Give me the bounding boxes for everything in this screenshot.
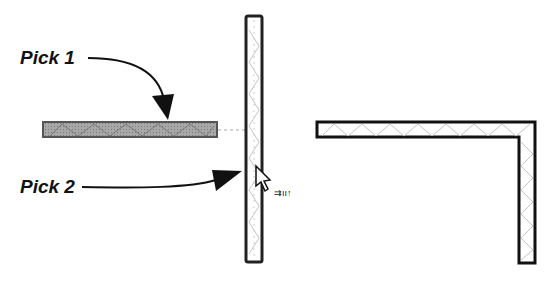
pick2-label: Pick 2 — [20, 176, 75, 198]
pick1-arrow — [88, 58, 174, 120]
pick1-label: Pick 1 — [20, 47, 75, 69]
trim-icon: ⇉ıı↑ — [274, 188, 292, 198]
pick2-arrow — [82, 170, 242, 191]
left-wall-selected[interactable] — [43, 122, 217, 137]
trim-extend-diagram: ⇉ıı↑ Pick 1 Pick 2 — [0, 0, 547, 282]
result-corner-wall — [317, 122, 535, 263]
diagram-graphics: ⇉ıı↑ — [0, 0, 547, 282]
vertical-wall[interactable] — [246, 16, 262, 262]
